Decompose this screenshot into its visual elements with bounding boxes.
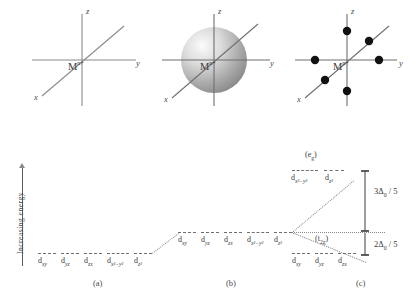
level-free-ion [61, 253, 79, 254]
panel-a-axes [20, 8, 145, 110]
ligand-dot-z-negative [343, 87, 351, 95]
t2g-term-close: ) [325, 234, 328, 243]
level-free-ion [38, 253, 56, 254]
figure-canvas: z y x Mn+ z y [0, 0, 417, 305]
level-free-ion [134, 253, 152, 254]
orbital-label-a-z2: dz² [134, 256, 142, 267]
caption-b: (b) [226, 278, 236, 288]
split-lower-tail: / 5 [387, 239, 398, 249]
panel-a-axis-y-label: y [136, 58, 140, 68]
level-free-ion [107, 253, 129, 254]
orb-sub: zx [228, 240, 233, 246]
panel-b-axis-y-label: y [270, 58, 274, 68]
split-lower-delta: 2Δ [374, 239, 384, 249]
energy-axis-label: Increasing energy [16, 192, 25, 254]
orbital-label-a-yz: dyz [61, 256, 70, 267]
orb-sub: x²−y² [251, 240, 263, 246]
term-label-t2g: (t2g) [315, 234, 328, 245]
panel-b-graphics [152, 8, 277, 110]
splitting-value-upper: 3Δ0 / 5 [374, 186, 398, 198]
orbital-label-t2g-zx: dzx [338, 256, 347, 267]
panel-b-metal-ion-label: Mn+ [200, 60, 216, 72]
panel-a-ion-symbol: M [68, 61, 77, 72]
split-upper-tail: / 5 [387, 186, 398, 196]
orb-sub: zx [342, 261, 347, 267]
orb-sub: z² [329, 178, 333, 184]
connector-a-to-b [152, 232, 181, 254]
term-label-eg: (eg) [305, 150, 317, 161]
orbital-label-a-x2y2: dx²−y² [107, 256, 123, 267]
level-spherical [178, 232, 196, 233]
panel-c-octahedral-field: z y x Mn+ [285, 8, 413, 110]
orb-sub: z² [278, 240, 282, 246]
orb-sub: yz [205, 240, 210, 246]
ligand-dot-z-positive [343, 27, 351, 35]
orb-sub: yz [319, 261, 324, 267]
orb-sub: xy [182, 240, 187, 246]
orbital-label-a-zx: dzx [84, 256, 93, 267]
level-t2g [292, 253, 310, 254]
orbital-label-eg-x2y2: dx²−y² [291, 173, 307, 184]
orb-sub: xy [42, 261, 47, 267]
orbital-label-b-zx: dzx [224, 235, 233, 246]
orbital-label-b-yz: dyz [201, 235, 210, 246]
orb-sub: yz [65, 261, 70, 267]
panel-b-ion-symbol: M [200, 61, 209, 72]
ligand-dot-y-positive [375, 56, 383, 64]
orb-sub: xy [296, 261, 301, 267]
level-spherical [201, 232, 219, 233]
orb-sub: x²−y² [111, 261, 123, 267]
orb-sub: z² [138, 261, 142, 267]
orb-sub: x²−y² [295, 178, 307, 184]
orbital-label-a-xy: dxy [38, 256, 47, 267]
level-eg [292, 170, 318, 171]
panel-a-metal-ion-label: Mn+ [68, 60, 84, 72]
orbital-label-b-z2: dz² [274, 235, 282, 246]
orbital-label-b-xy: dxy [178, 235, 187, 246]
ligand-dot-y-negative [311, 56, 319, 64]
panel-c-axis-y-label: y [399, 58, 403, 68]
caption-c: (c) [356, 278, 365, 288]
connector-b-to-eg [292, 181, 354, 233]
panel-a-free-ion: z y x Mn+ [20, 8, 145, 110]
level-t2g [315, 253, 333, 254]
level-spherical [247, 232, 269, 233]
level-spherical [274, 232, 292, 233]
ligand-dot-x-negative [321, 76, 329, 84]
splitting-value-lower: 2Δ0 / 5 [374, 239, 398, 251]
panel-a-ion-charge: n+ [77, 60, 83, 66]
panel-c-axis-z-label: z [351, 6, 354, 16]
panel-c-ion-symbol: M [333, 61, 342, 72]
level-eg [324, 170, 344, 171]
level-t2g [338, 253, 356, 254]
splitting-measure-bars [358, 164, 372, 260]
energy-axis-arrowhead [19, 163, 25, 168]
orbital-label-eg-z2: dz² [325, 173, 333, 184]
level-free-ion [84, 253, 102, 254]
eg-term-close: ) [314, 150, 317, 159]
orbital-label-b-x2y2: dx²−y² [247, 235, 263, 246]
panel-b-axis-x-label: x [164, 94, 168, 104]
panel-a-axis-x-label: x [34, 92, 38, 102]
panel-b-spherical-field: z y x Mn+ [152, 8, 277, 110]
panel-b-ion-charge: n+ [209, 60, 215, 66]
panel-a-axis-z-label: z [86, 6, 89, 16]
orbital-label-t2g-xy: dxy [292, 256, 301, 267]
level-spherical [224, 232, 242, 233]
caption-a: (a) [93, 278, 102, 288]
panel-b-axis-z-label: z [218, 6, 221, 16]
orb-sub: zx [88, 261, 93, 267]
orbital-label-t2g-yz: dyz [315, 256, 324, 267]
panel-c-metal-ion-label: Mn+ [333, 60, 349, 72]
connector-b-to-t2g [292, 232, 367, 263]
panel-c-axis-x-label: x [297, 94, 301, 104]
split-upper-delta: 3Δ [374, 186, 384, 196]
panel-c-ion-charge: n+ [342, 60, 348, 66]
panel-c-graphics [285, 8, 413, 110]
ligand-dot-x-positive [365, 37, 373, 45]
